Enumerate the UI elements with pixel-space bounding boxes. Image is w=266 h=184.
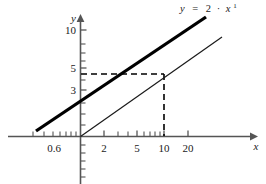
- formula-lhs: y: [179, 3, 185, 14]
- svg-text:y = 2: y = 2 · x 1: [179, 2, 237, 14]
- formula-equals: =: [192, 3, 198, 14]
- x-tick-labels: 0.6 2 5 10 20: [47, 142, 194, 154]
- x-axis-label: x: [253, 140, 259, 152]
- x-tick-label-1: 2: [101, 142, 107, 154]
- y-tick-labels: 10 5 3: [65, 24, 77, 96]
- y-tick-label-0: 10: [65, 24, 77, 36]
- plot-canvas: 0.6 2 5 10 20 10 5 3 y x y = 2 · x 1: [0, 0, 266, 184]
- log-log-plot-figure: 0.6 2 5 10 20 10 5 3 y x y = 2 · x 1: [0, 0, 266, 184]
- y-axis-arrowhead: [77, 14, 85, 22]
- y-tick-label-2: 3: [71, 84, 77, 96]
- formula-dot: ·: [217, 3, 221, 14]
- formula-coefficient: 2: [206, 3, 211, 14]
- formula-exponent: 1: [233, 2, 237, 10]
- y-tick-label-1: 5: [71, 62, 77, 74]
- x-tick-label-2: 5: [134, 142, 140, 154]
- x-tick-label-3: 10: [159, 142, 171, 154]
- main-curve-line: [36, 17, 206, 131]
- y-axis-ticks: [81, 30, 87, 177]
- x-tick-label-0: 0.6: [47, 142, 61, 154]
- series-group: [36, 17, 222, 137]
- x-tick-label-4: 20: [183, 142, 195, 154]
- curve-formula-label: y = 2 · x 1: [179, 2, 237, 14]
- y-axis-label: y: [70, 12, 76, 24]
- formula-variable: x: [225, 3, 231, 14]
